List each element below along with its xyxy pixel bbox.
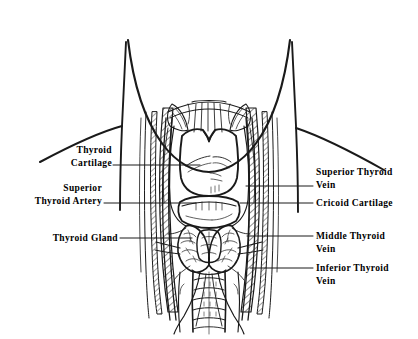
label-middle-thyroid-vein-line2: Vein: [316, 243, 385, 256]
label-thyroid-gland: Thyroid Gland: [0, 232, 118, 245]
label-thyroid-cartilage-line1: Thyroid: [76, 145, 112, 155]
label-superior-thyroid-vein: Superior Thyroid Vein: [316, 166, 393, 191]
label-thyroid-cartilage-line2: Cartilage: [0, 157, 112, 170]
sternocleidomastoid-right: [241, 108, 259, 312]
trachea: [192, 272, 226, 334]
label-superior-thyroid-artery-line1: Superior: [63, 183, 102, 193]
thyroid-gland-left-lobe: [178, 225, 209, 272]
thyroid-gland-right-lobe: [209, 225, 240, 272]
label-inferior-thyroid-vein-line1: Inferior Thyroid: [316, 263, 389, 273]
label-cricoid-cartilage-line1: Cricoid Cartilage: [316, 198, 393, 208]
thyroid-isthmus: [197, 230, 221, 263]
label-superior-thyroid-artery-line2: Thyroid Artery: [0, 195, 102, 208]
label-inferior-thyroid-vein-line2: Vein: [316, 275, 389, 288]
strap-muscles: [168, 101, 251, 133]
label-thyroid-cartilage: Thyroid Cartilage: [0, 144, 112, 169]
thyroid-cartilage: [180, 129, 238, 196]
label-superior-thyroid-vein-line2: Vein: [316, 179, 393, 192]
label-inferior-thyroid-vein: Inferior Thyroid Vein: [316, 262, 389, 287]
shoulder-right: [296, 128, 384, 170]
label-superior-thyroid-artery: Superior Thyroid Artery: [0, 182, 102, 207]
label-superior-thyroid-vein-line1: Superior Thyroid: [316, 167, 393, 177]
thyroid-anatomy-figure: Thyroid Cartilage Superior Thyroid Arter…: [0, 0, 418, 339]
label-middle-thyroid-vein-line1: Middle Thyroid: [316, 231, 385, 241]
label-cricoid-cartilage: Cricoid Cartilage: [316, 197, 393, 210]
label-middle-thyroid-vein: Middle Thyroid Vein: [316, 230, 385, 255]
label-thyroid-gland-line1: Thyroid Gland: [53, 233, 118, 243]
cricoid-cartilage: [178, 196, 239, 228]
